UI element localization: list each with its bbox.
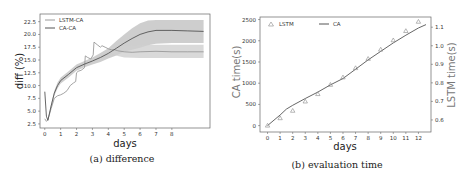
x-tick-label: 8 [170, 131, 174, 137]
x-tick-label: 10 [390, 135, 397, 141]
x-axis-label: days [113, 138, 137, 149]
y-tick-label: 22.5 [24, 19, 37, 25]
x-tick-label: 7 [154, 131, 158, 137]
y-axis-label: diff (%) [14, 53, 25, 90]
x-tick-label: 4 [107, 131, 111, 137]
x-tick-label: 3 [91, 131, 95, 137]
y-tick-label: 2.5 [27, 121, 36, 127]
legend-swatch-lstm [269, 22, 274, 26]
caption-a: (a) difference [90, 153, 155, 164]
chart-evaluation-time: 0123456789101112 05001000150020002500 0.… [231, 17, 457, 170]
chart-difference: 012345678 2.55.07.510.012.515.017.520.02… [14, 14, 210, 164]
x-tick-label: 11 [402, 135, 409, 141]
x-tick-label: 12 [415, 135, 422, 141]
x-tick-label: 0 [266, 135, 270, 141]
x-tick-label: 0 [43, 131, 47, 137]
y-tick-label: 7.5 [27, 95, 36, 101]
y-tick-label: 5.0 [27, 108, 36, 114]
y-tick-label: 15.0 [24, 57, 37, 63]
x-tick-label: 3 [304, 135, 308, 141]
y-tick-label-right: 0.7 [435, 98, 444, 104]
y-tick-label-left: 0 [253, 123, 257, 129]
y-tick-label-right: 1.0 [435, 43, 444, 49]
y-tick-label-right: 0.8 [435, 80, 444, 86]
x-tick-label: 4 [316, 135, 320, 141]
lstm-marker [316, 92, 320, 96]
x-tick-label: 1 [59, 131, 63, 137]
x-axis-label: days [333, 141, 357, 152]
legend-label-ca: CA [333, 21, 341, 27]
lstm-marker [379, 47, 383, 51]
lstm-marker [290, 108, 294, 112]
x-tick-label: 8 [366, 135, 370, 141]
lstm-marker [391, 38, 395, 42]
x-tick-label: 1 [278, 135, 282, 141]
y-tick-label-left: 1000 [242, 80, 256, 86]
x-tick-label: 2 [75, 131, 79, 137]
y-tick-label-left: 500 [246, 101, 257, 107]
y-axis-label-left: CA time(s) [231, 46, 242, 99]
x-tick-label: 9 [379, 135, 383, 141]
legend-label-ca-ca: CA-CA [59, 25, 76, 31]
caption-b: (b) evaluation time [291, 159, 383, 170]
legend: LSTM CA [269, 21, 341, 27]
plot-frame [260, 17, 431, 132]
legend: LSTM-CA CA-CA [45, 17, 83, 31]
x-tick-label: 6 [138, 131, 142, 137]
figure: 012345678 2.55.07.510.012.515.017.520.02… [0, 0, 464, 182]
y-tick-label-right: 1.1 [435, 24, 444, 30]
legend-label-lstm: LSTM [279, 21, 294, 27]
y-tick-label-right: 0.9 [435, 61, 444, 67]
y-tick-label: 20.0 [24, 31, 37, 37]
lstm-marker [416, 19, 420, 23]
band-ca-ca [45, 20, 204, 120]
y-axis-label-right: LSTM time(s) [446, 42, 457, 108]
y-tick-label: 12.5 [24, 70, 37, 76]
legend-label-lstm-ca: LSTM-CA [59, 17, 83, 23]
y-tick-label: 17.5 [24, 44, 37, 50]
y-tick-label-left: 1500 [242, 59, 256, 65]
y-tick-label-right: 0.6 [435, 117, 444, 123]
x-tick-label: 5 [329, 135, 333, 141]
y-tick-label: 10.0 [24, 83, 37, 89]
lstm-marker [404, 29, 408, 33]
y-tick-label-left: 2000 [242, 38, 256, 44]
x-tick-label: 5 [122, 131, 126, 137]
x-tick-label: 2 [291, 135, 295, 141]
y-tick-label-left: 2500 [242, 17, 256, 23]
